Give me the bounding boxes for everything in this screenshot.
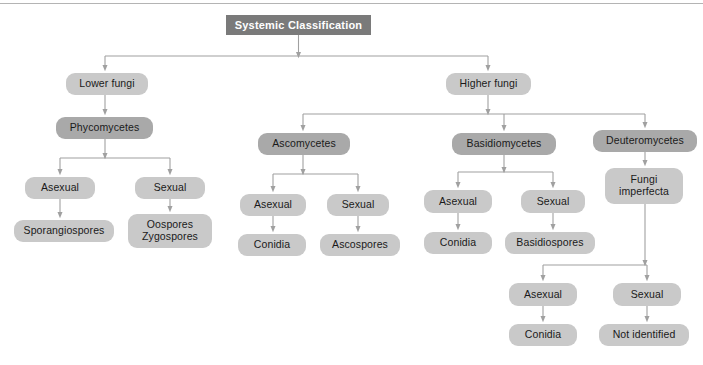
node-phycomycetes-sexual: Sexual <box>135 177 205 199</box>
node-ascomycetes: Ascomycetes <box>258 133 350 155</box>
node-deuteromycetes-sexual: Sexual <box>613 283 681 306</box>
node-deuteromycetes-conidia: Conidia <box>509 324 577 346</box>
node-fungi-imperfecta: Fungi imperfecta <box>605 168 683 204</box>
top-border-rule <box>0 3 703 4</box>
connector-lines <box>0 0 703 365</box>
node-sporangiospores: Sporangiospores <box>14 220 114 242</box>
node-deuteromycetes: Deuteromycetes <box>593 130 697 152</box>
node-basidiospores: Basidiospores <box>505 232 595 254</box>
node-lower-fungi: Lower fungi <box>66 73 148 95</box>
node-ascomycetes-asexual: Asexual <box>240 194 306 216</box>
node-phycomycetes: Phycomycetes <box>56 117 153 139</box>
node-ascomycetes-conidia: Conidia <box>238 234 306 256</box>
node-phycomycetes-asexual: Asexual <box>25 177 95 199</box>
node-oospores-zygospores: Oospores Zygospores <box>128 214 212 248</box>
node-basidiomycetes-asexual: Asexual <box>424 190 492 213</box>
node-basidiomycetes-conidia: Conidia <box>424 232 492 254</box>
diagram-canvas: Systemic Classification Lower fungi High… <box>0 0 703 365</box>
node-not-identified: Not identified <box>599 324 689 346</box>
node-root: Systemic Classification <box>226 15 371 35</box>
node-basidiomycetes: Basidiomycetes <box>452 133 556 155</box>
node-ascospores: Ascospores <box>320 234 400 256</box>
node-basidiomycetes-sexual: Sexual <box>521 190 585 213</box>
node-ascomycetes-sexual: Sexual <box>327 194 389 216</box>
node-deuteromycetes-asexual: Asexual <box>509 283 577 306</box>
node-higher-fungi: Higher fungi <box>446 73 531 95</box>
